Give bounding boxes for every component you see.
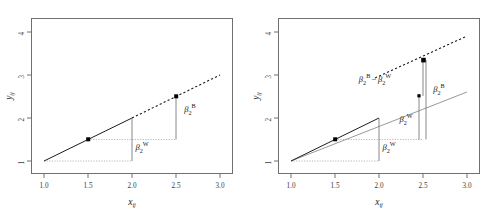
y-axis-title-left: yij — [4, 92, 15, 101]
y-tick-label: 1 — [265, 161, 273, 165]
data-point-marker-gray — [417, 94, 420, 97]
x-axis-title-right: xij — [374, 197, 383, 208]
data-point-marker — [333, 137, 337, 141]
figure-container: 1.0 1.5 2.0 2.5 3.0 1 2 3 4 xij — [0, 0, 494, 214]
x-tick-label: 1.5 — [84, 182, 93, 190]
left-panel: 1.0 1.5 2.0 2.5 3.0 1 2 3 4 xij — [0, 0, 247, 214]
x-tick-label: 1.0 — [287, 182, 296, 190]
x-tick-label: 2.5 — [419, 182, 428, 190]
y-tick-label: 4 — [265, 32, 273, 36]
x-axis-ticks-right — [291, 174, 467, 179]
y-tick-label: 3 — [18, 75, 26, 79]
y-axis-ticks-right — [274, 32, 279, 161]
y-tick-label: 3 — [265, 75, 273, 79]
x-axis-title-left: xij — [127, 197, 136, 208]
data-point-marker — [86, 137, 90, 141]
y-axis-ticks-left — [27, 32, 32, 161]
y-tick-label: 1 — [18, 161, 26, 165]
within-slope-label-left: β2W — [134, 140, 148, 153]
x-tick-label: 2.0 — [375, 182, 384, 190]
within-slope-label-upper-right: β2W — [398, 112, 412, 125]
data-point-marker — [421, 58, 426, 63]
right-panel: 1.0 1.5 2.0 2.5 3.0 1 2 3 4 xij — [247, 0, 494, 214]
y-axis-tick-labels-left: 1 2 3 4 — [18, 32, 26, 165]
x-tick-label: 2.0 — [128, 182, 137, 190]
x-axis-ticks-left — [44, 174, 220, 179]
x-tick-label: 1.5 — [331, 182, 340, 190]
within-slope-label-lower-right: β2W — [381, 140, 395, 153]
between-slope-label-right: β2B — [432, 82, 445, 95]
y-axis-tick-labels-right: 1 2 3 4 — [265, 32, 273, 165]
y-tick-label: 2 — [265, 118, 273, 122]
y-tick-label: 2 — [18, 118, 26, 122]
y-axis-title-right: yij — [251, 92, 262, 101]
slope-guides-right — [291, 140, 423, 162]
data-point-marker — [174, 94, 178, 98]
x-tick-label: 1.0 — [40, 182, 49, 190]
x-axis-tick-labels-left: 1.0 1.5 2.0 2.5 3.0 — [40, 182, 225, 190]
x-tick-label: 3.0 — [463, 182, 472, 190]
y-tick-label: 4 — [18, 32, 26, 36]
x-tick-label: 3.0 — [216, 182, 225, 190]
between-slope-label-left: β2B — [183, 102, 196, 115]
slope-difference-label-right: β2B−β2W — [358, 72, 392, 85]
x-tick-label: 2.5 — [172, 182, 181, 190]
x-axis-tick-labels-right: 1.0 1.5 2.0 2.5 3.0 — [287, 182, 472, 190]
